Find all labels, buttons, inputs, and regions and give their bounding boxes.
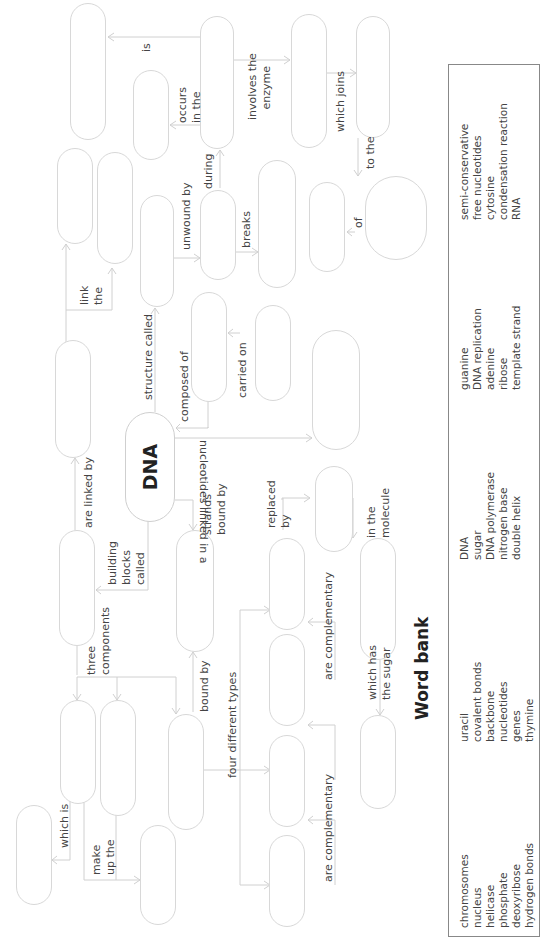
link-label-link-the: link the xyxy=(78,286,106,305)
word-bank-item: DNA polymerase xyxy=(484,472,497,560)
word-bank-item: DNA replication xyxy=(471,306,484,390)
link-label-replaced-by: replaced by xyxy=(265,480,293,528)
word-bank-item: hydrogen bonds xyxy=(523,843,536,928)
word-bank-item: chromosomes xyxy=(458,843,471,928)
concept-box-base-4[interactable] xyxy=(269,835,305,927)
word-bank-item: condensation reaction xyxy=(497,103,510,220)
concept-box-unwound[interactable] xyxy=(200,190,236,280)
word-bank-item: adenine xyxy=(484,306,497,390)
concept-box-which-is[interactable] xyxy=(16,805,52,905)
link-label-four-different-types: four different types xyxy=(226,672,240,778)
concept-box-broken[interactable] xyxy=(258,160,296,288)
word-bank-item: thymine xyxy=(523,662,536,742)
concept-box-linked-b[interactable] xyxy=(97,152,133,264)
word-bank-item: cytosine xyxy=(484,103,497,220)
concept-box-base-1[interactable] xyxy=(269,538,305,630)
link-label-strands-bound-by: strands bound by xyxy=(201,483,229,535)
concept-box-composed[interactable] xyxy=(191,292,227,402)
concept-box-linked-a[interactable] xyxy=(57,148,93,244)
concept-box-replaced[interactable] xyxy=(315,466,353,552)
word-bank-item: double helix xyxy=(510,472,523,560)
word-bank-column-3: DNA sugar DNA polymerase nitrogen base d… xyxy=(458,472,523,560)
link-label-which-joins: which joins xyxy=(334,71,348,132)
concept-box-of[interactable] xyxy=(309,182,345,272)
concept-box-joined-items[interactable] xyxy=(356,16,390,138)
word-bank-item: guanine xyxy=(458,306,471,390)
link-label-to-the: to the xyxy=(364,136,378,169)
word-bank-column-4: guanine DNA replication adenine ribose t… xyxy=(458,306,523,390)
concept-box-joined-target[interactable] xyxy=(365,176,427,260)
link-label-carried-on: carried on xyxy=(236,342,250,398)
word-bank-item: sugar xyxy=(471,472,484,560)
link-label-of: of xyxy=(352,217,366,228)
link-label-breaks: breaks xyxy=(240,211,254,248)
word-bank-item: phosphate xyxy=(497,843,510,928)
concept-box-top-left[interactable] xyxy=(70,3,106,140)
concept-box-component-1[interactable] xyxy=(60,700,96,804)
word-bank-item: DNA xyxy=(458,472,471,560)
word-bank-item: nitrogen base xyxy=(497,472,510,560)
word-bank-item: nucleus xyxy=(471,843,484,928)
link-label-unwound-by: unwound by xyxy=(180,182,194,250)
concept-box-carried-on[interactable] xyxy=(255,305,291,401)
link-label-are-complementary-2: are complementary xyxy=(322,774,336,882)
link-label-three-components: three components xyxy=(85,607,113,675)
link-label-during: during xyxy=(202,154,216,190)
word-bank-item: template strand xyxy=(510,306,523,390)
word-bank-item: ribose xyxy=(497,306,510,390)
link-label-in-the-molecule: in the molecule xyxy=(365,488,393,538)
link-label-composed-of: composed of xyxy=(178,351,192,422)
concept-box-sugar[interactable] xyxy=(360,715,396,809)
link-label-which-has-the-sugar: which has the sugar xyxy=(366,645,394,700)
word-bank-item: semi-conservative xyxy=(458,103,471,220)
link-label-make-up-the: make up the xyxy=(90,839,118,875)
word-bank-item: free nucleotides xyxy=(471,103,484,220)
concept-box-base-2[interactable] xyxy=(269,634,305,726)
concept-box-enzyme[interactable] xyxy=(291,14,327,148)
concept-box-dna-replication[interactable] xyxy=(200,16,234,149)
concept-box-location[interactable] xyxy=(133,70,169,160)
word-bank-title: Word bank xyxy=(412,617,432,720)
concept-box-make-up[interactable] xyxy=(140,825,176,925)
word-bank-column-1: chromosomes nucleus helicase phosphate d… xyxy=(458,843,536,928)
link-label-are-linked-by: are linked by xyxy=(82,457,96,528)
word-bank-item: backbone xyxy=(484,662,497,742)
word-bank-item: nucleotides xyxy=(497,662,510,742)
link-label-structure-called: structure called xyxy=(142,314,156,400)
concept-box-helicase[interactable] xyxy=(140,195,174,307)
link-label-bound-by: bound by xyxy=(198,660,212,712)
concept-box-component-3[interactable] xyxy=(168,714,204,830)
word-bank-item: covalent bonds xyxy=(471,662,484,742)
word-bank-item: genes xyxy=(510,662,523,742)
concept-box-molecule[interactable] xyxy=(360,538,396,660)
link-label-involves-the-enzyme: involves the enzyme xyxy=(246,53,274,120)
word-bank-item: uracil xyxy=(458,662,471,742)
link-label-building-blocks-called: building blocks called xyxy=(106,541,148,585)
link-label-occurs-in-the: occurs in the xyxy=(176,87,204,123)
word-bank-item: helicase xyxy=(484,843,497,928)
word-bank-column-5: semi-conservative free nucleotides cytos… xyxy=(458,103,523,220)
word-bank-item: RNA xyxy=(510,103,523,220)
link-label-which-is: which is xyxy=(58,804,72,848)
dna-label: DNA xyxy=(139,444,161,490)
concept-box-linked-in-a[interactable] xyxy=(312,330,360,450)
link-label-are-complementary-1: are complementary xyxy=(322,572,336,680)
concept-box-component-2[interactable] xyxy=(100,700,136,816)
link-label-is: is xyxy=(140,43,154,52)
word-bank-item: deoxyribose xyxy=(510,843,523,928)
word-bank-column-2: uracil covalent bonds backbone nucleotid… xyxy=(458,662,536,742)
concept-box-bonds[interactable] xyxy=(55,340,91,458)
concept-box-base-3[interactable] xyxy=(269,735,305,827)
dna-central-node: DNA xyxy=(125,412,175,522)
